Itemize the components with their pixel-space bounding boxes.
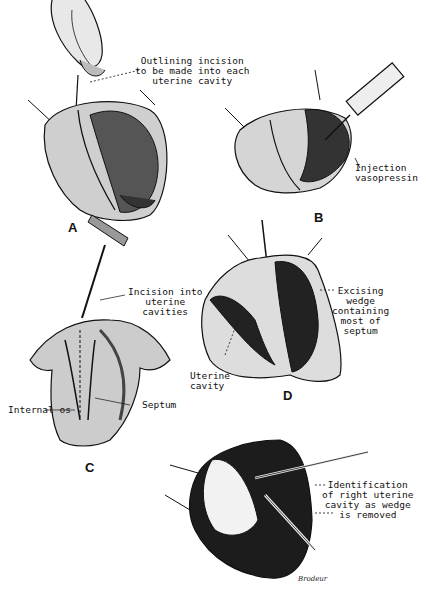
- annotation-septum: Septum: [142, 400, 176, 410]
- annotation-identification-right-cavity: Identification of right uterine cavity a…: [322, 480, 414, 520]
- annotation-injection-vasopressin: Injection vasopressin: [355, 163, 418, 183]
- artist-signature: Brodeur: [298, 575, 327, 583]
- annotation-excising-wedge: Excising wedge containing most of septum: [332, 286, 389, 336]
- annotation-outlining-incision: Outlining incision to be made into each …: [135, 56, 249, 86]
- panel-label-b: B: [314, 210, 323, 225]
- annotation-incision-into-cavities: Incision into uterine cavities: [128, 287, 202, 317]
- panel-label-a: A: [68, 220, 77, 235]
- annotation-uterine-cavity: Uterine cavity: [190, 371, 230, 391]
- panel-a-drawing: [28, 0, 167, 220]
- panel-label-c: C: [85, 460, 94, 475]
- panel-d-drawing: [202, 220, 341, 381]
- panel-label-d: D: [283, 388, 292, 403]
- annotation-internal-os: Internal os: [8, 405, 71, 415]
